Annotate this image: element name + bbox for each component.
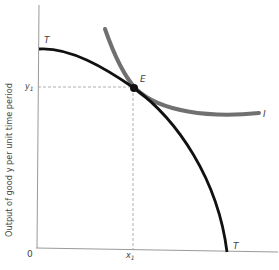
t-curve-label-bottom: T <box>233 241 240 251</box>
indifference-curve <box>105 29 259 115</box>
y-axis <box>37 5 39 248</box>
origin-label: 0 <box>27 249 33 259</box>
y1-label: y1 <box>24 82 34 92</box>
economics-diagram: T T I E 0 y1 x1 Output of good y per uni… <box>0 0 279 270</box>
point-e-label: E <box>140 74 146 84</box>
i-curve-label: I <box>263 109 266 119</box>
x-axis <box>36 248 278 252</box>
x1-label: x1 <box>125 251 135 261</box>
y-axis-title: Output of good y per unit time period <box>4 83 14 237</box>
tangency-point <box>130 84 138 92</box>
t-curve-label-top: T <box>44 35 51 45</box>
